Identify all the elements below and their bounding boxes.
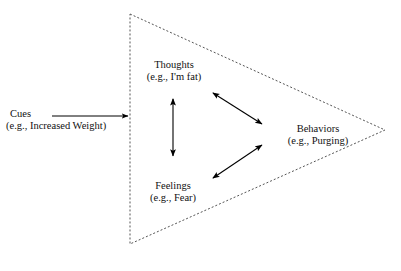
node-label-behaviors: Behaviors (e.g., Purging) [272,123,364,148]
node-label-thoughts: Thoughts (e.g., I'm fat) [125,59,223,84]
thoughts-title: Thoughts [125,59,223,71]
feelings-behaviors-arrow [213,145,262,178]
thoughts-example: (e.g., I'm fat) [125,71,223,83]
cues-title: Cues [2,108,128,120]
feelings-example: (e.g., Fear) [125,192,221,204]
node-label-cues: Cues (e.g., Increased Weight) [2,108,128,133]
behaviors-example: (e.g., Purging) [272,135,364,147]
thoughts-behaviors-arrow [213,93,262,124]
cues-example: (e.g., Increased Weight) [2,120,128,132]
node-label-feelings: Feelings (e.g., Fear) [125,180,221,205]
cbt-triangle-diagram: Cues (e.g., Increased Weight) Thoughts (… [0,0,401,271]
feelings-title: Feelings [125,180,221,192]
behaviors-title: Behaviors [272,123,364,135]
